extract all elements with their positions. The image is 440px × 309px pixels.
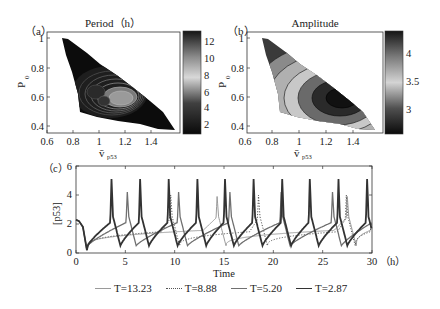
panel-b-xtick: 1.4 — [346, 136, 360, 147]
legend-label: T=2.87 — [315, 282, 347, 294]
panel-c-xtick: 30 — [367, 256, 378, 267]
panel-b-cbar-tick: 4 — [406, 48, 412, 59]
panel-c-label: （c） — [43, 163, 68, 174]
panel-b-cbar-tick: 3 — [406, 104, 411, 115]
panel-c-ytick: 2 — [67, 218, 72, 229]
panel-c-ylabel: [p53] — [51, 202, 62, 225]
panel-c-xtick: 0 — [73, 256, 78, 267]
panel-a-cbar-tick: 8 — [204, 70, 209, 81]
panel-a-xtick: 0.8 — [66, 136, 79, 147]
panel-c-xtick: 20 — [268, 256, 279, 267]
legend-label: T=5.20 — [250, 282, 282, 294]
panel-b-ylabel-sub: 0 — [224, 75, 232, 79]
legend-swatch — [231, 288, 247, 289]
panel-b-ytick: 1 — [239, 33, 244, 44]
panel-a-xtick: 1.4 — [144, 136, 158, 147]
panel-b-colorbar — [385, 31, 403, 134]
legend-swatch — [166, 288, 182, 289]
panel-a-ytick: 0.4 — [31, 121, 45, 132]
panel-a-title: Period（h） — [85, 17, 141, 29]
panel-c-xlabel: Time — [213, 268, 235, 279]
panel-b-cbar-tick: 3.5 — [406, 76, 419, 87]
panel-c-xtick: 25 — [318, 256, 329, 267]
panel-a-ytick: 1 — [39, 33, 44, 44]
panel-c-xtick: 10 — [170, 256, 181, 267]
panel-c-legend: T=13.23 T=8.88 T=5.20 T=2.87 — [95, 279, 360, 297]
panel-a-xtick: 1.2 — [118, 136, 131, 147]
panel-b-xtick: 1.2 — [319, 136, 332, 147]
panel-a-cbar-tick: 6 — [204, 87, 209, 98]
panel-c-xunit: （h） — [380, 256, 405, 267]
panel-c-ytick: 0 — [67, 247, 72, 258]
legend-item: T=2.87 — [296, 282, 347, 294]
panel-a-xtick: 0.6 — [40, 136, 53, 147]
panel-b-ytick: 0.6 — [231, 92, 244, 103]
panel-b-title: Amplitude — [291, 17, 338, 29]
panel-a-ylabel-sub: 0 — [23, 75, 31, 79]
legend-swatch — [296, 288, 312, 289]
panel-b-amplitude-contour: （b） Amplitude 0.4 0.6 0.8 1 0.6 0.8 1 1.… — [210, 0, 440, 160]
panel-a-colorbar — [183, 31, 201, 134]
panel-b-xtick: 1 — [296, 136, 301, 147]
legend-label: T=13.23 — [114, 282, 152, 294]
panel-c-xtick: 15 — [219, 256, 230, 267]
panel-c-timeseries: （c） 0 2 4 6 0 5 10 15 20 25 30 （h） Time … — [0, 155, 440, 280]
panel-b-ytick: 0.8 — [231, 63, 244, 74]
panel-b-ytick: 0.4 — [231, 121, 245, 132]
panel-a-ytick: 0.8 — [31, 63, 44, 74]
legend-item: T=5.20 — [231, 282, 282, 294]
legend-swatch — [95, 288, 111, 289]
panel-c-xtick: 5 — [122, 256, 127, 267]
legend-item: T=8.88 — [166, 282, 217, 294]
legend-item: T=13.23 — [95, 282, 152, 294]
panel-a-period-contour: （a） Period（h） 0.4 0.6 0.8 1 0.6 0.8 1 1.… — [0, 0, 220, 160]
panel-c-ytick: 4 — [67, 189, 73, 200]
panel-c-ytick: 6 — [67, 161, 72, 172]
panel-a-cbar-tick: 2 — [204, 119, 209, 130]
legend-label: T=8.88 — [185, 282, 217, 294]
panel-b-xtick: 0.8 — [265, 136, 278, 147]
panel-a-ytick: 0.6 — [31, 92, 44, 103]
panel-b-ylabel: P — [216, 82, 228, 88]
panel-a-xtick: 1 — [96, 136, 101, 147]
panel-a-ylabel: P — [15, 82, 27, 88]
panel-b-xtick: 0.6 — [238, 136, 251, 147]
